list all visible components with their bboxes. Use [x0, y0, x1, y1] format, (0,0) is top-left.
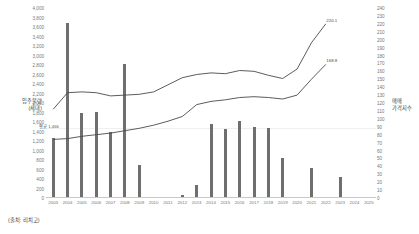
left-tick-label: 200 — [36, 186, 44, 191]
right-tick-label: 140 — [377, 85, 385, 90]
right-tick-label: 50 — [377, 156, 382, 161]
chart-root: 입주물량 (세대) 매매 가격지수 4,0003,8003,6003,4003,… — [0, 0, 419, 234]
x-tick-label: 2025 — [364, 200, 374, 205]
right-tick-label: 240 — [377, 6, 385, 11]
x-tick-label: 2007 — [106, 200, 116, 205]
left-tick-label: 1,000 — [33, 148, 45, 153]
x-axis-line — [46, 197, 376, 198]
x-tick-label: 2009 — [134, 200, 144, 205]
left-tick-label: 3,000 — [33, 53, 45, 58]
left-tick-label: 3,200 — [33, 44, 45, 49]
plot-area: 220.1 168.8 평균 1,466 — [46, 8, 376, 198]
series1-end-label: 220.1 — [326, 18, 337, 23]
x-tick-label: 2017 — [249, 200, 259, 205]
left-tick-label: 400 — [36, 177, 44, 182]
x-tick-label: 2016 — [235, 200, 245, 205]
left-tick-label: 4,000 — [33, 6, 45, 11]
left-tick-label: 2,200 — [33, 91, 45, 96]
right-tick-label: 230 — [377, 13, 385, 18]
left-tick-label: 3,400 — [33, 34, 45, 39]
average-annotation: 평균 1,466 — [39, 123, 59, 129]
x-tick-label: 2010 — [149, 200, 159, 205]
x-tick-label: 2008 — [120, 200, 130, 205]
x-tick-label: 2015 — [220, 200, 230, 205]
left-tick-label: 1,200 — [33, 139, 45, 144]
left-tick-label: 1,400 — [33, 129, 45, 134]
left-tick-label: 800 — [36, 158, 44, 163]
x-tick-label: 2004 — [63, 200, 73, 205]
right-tick-label: 0 — [377, 196, 380, 201]
series2-end-label: 168.8 — [326, 58, 337, 63]
right-tick-label: 150 — [377, 77, 385, 82]
right-tick-label: 160 — [377, 69, 385, 74]
left-axis-ticks: 4,0003,8003,6003,4003,2003,0002,8002,600… — [20, 0, 44, 200]
x-tick-label: 2021 — [307, 200, 317, 205]
line-series — [46, 8, 376, 198]
x-tick-label: 2011 — [163, 200, 172, 205]
right-tick-label: 70 — [377, 140, 382, 145]
x-tick-label: 2006 — [91, 200, 101, 205]
right-tick-label: 80 — [377, 132, 382, 137]
x-tick-label: 2020 — [292, 200, 302, 205]
right-tick-label: 20 — [377, 180, 382, 185]
right-tick-label: 220 — [377, 21, 385, 26]
x-tick-label: 2014 — [206, 200, 216, 205]
right-tick-label: 30 — [377, 172, 382, 177]
x-tick-label: 2023 — [335, 200, 345, 205]
line-series-1 — [53, 24, 326, 110]
left-tick-label: 3,600 — [33, 25, 45, 30]
x-tick-label: 2019 — [278, 200, 288, 205]
right-axis-title-line2: 가격지수 — [392, 105, 419, 112]
right-tick-label: 110 — [377, 108, 384, 113]
right-tick-label: 190 — [377, 45, 385, 50]
source-note: (출처: 리치고) — [8, 216, 40, 224]
left-tick-label: 1,800 — [33, 110, 45, 115]
x-tick-label: 2013 — [192, 200, 202, 205]
x-tick-label: 2005 — [77, 200, 87, 205]
right-tick-label: 200 — [377, 37, 385, 42]
left-tick-label: 2,800 — [33, 63, 45, 68]
x-tick-label: 2003 — [48, 200, 58, 205]
left-tick-label: 0 — [41, 196, 44, 201]
left-tick-label: 2,600 — [33, 72, 45, 77]
x-tick-label: 2018 — [264, 200, 274, 205]
right-axis-title: 매매 가격지수 — [392, 98, 419, 111]
right-tick-label: 90 — [377, 124, 382, 129]
left-tick-label: 3,800 — [33, 15, 45, 20]
x-tick-label: 2024 — [350, 200, 360, 205]
x-tick-label: 2012 — [177, 200, 187, 205]
right-tick-label: 120 — [377, 101, 385, 106]
x-axis-ticks: 2003200420052006200720082009201020112012… — [46, 199, 376, 211]
right-tick-label: 130 — [377, 93, 385, 98]
right-tick-label: 170 — [377, 61, 385, 66]
left-tick-label: 2,400 — [33, 82, 45, 87]
right-tick-label: 180 — [377, 53, 385, 58]
right-tick-label: 210 — [377, 29, 385, 34]
left-tick-label: 2,000 — [33, 101, 45, 106]
right-axis-ticks: 2402302202102001901801701601501401301201… — [377, 0, 393, 200]
x-tick-label: 2022 — [321, 200, 331, 205]
right-tick-label: 60 — [377, 148, 382, 153]
right-tick-label: 40 — [377, 164, 382, 169]
right-tick-label: 10 — [377, 188, 382, 193]
left-tick-label: 600 — [36, 167, 44, 172]
right-tick-label: 100 — [377, 116, 385, 121]
